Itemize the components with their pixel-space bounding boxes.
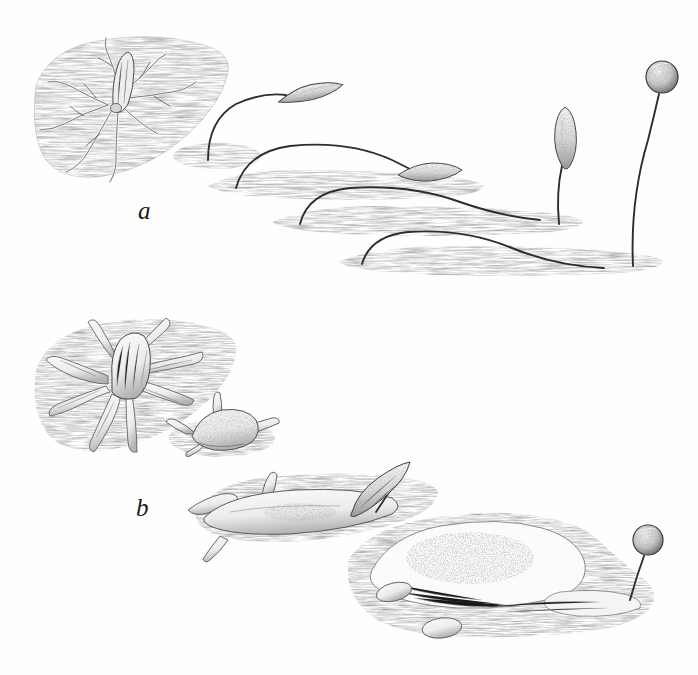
- sporangium-a5: [646, 61, 678, 93]
- figure-plate: a b: [0, 0, 698, 675]
- engraving-canvas: [0, 0, 698, 675]
- sporangium-b4: [633, 525, 663, 555]
- series-label-a: a: [138, 198, 151, 223]
- series-label-b: b: [136, 495, 149, 520]
